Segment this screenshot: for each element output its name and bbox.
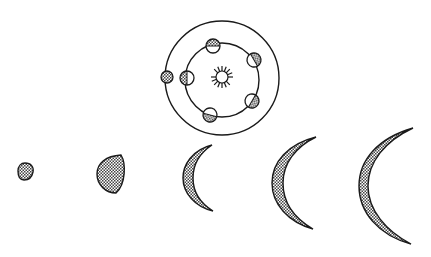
phase-sequence <box>18 128 413 244</box>
earth-position-marker <box>161 71 173 83</box>
phase-gibbous-small <box>18 163 33 180</box>
planet-left <box>180 71 194 85</box>
planet-top <box>206 39 220 53</box>
planet-lower-right <box>242 91 261 110</box>
phase-crescent-2 <box>272 137 316 229</box>
phase-crescent-3 <box>359 128 413 244</box>
phase-gibbous-large <box>97 155 124 193</box>
phase-crescent-1 <box>183 145 213 211</box>
venus-phases-diagram <box>0 0 431 257</box>
planet-bottom <box>201 106 218 123</box>
sun-icon <box>211 66 233 88</box>
